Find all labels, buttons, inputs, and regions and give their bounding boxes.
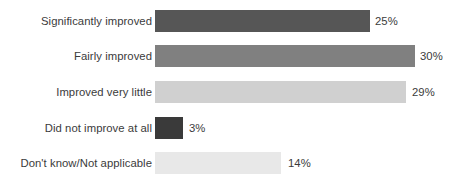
value-label: 30% bbox=[420, 45, 443, 67]
category-label: Significantly improved bbox=[41, 10, 152, 32]
bar-dont-know-not-applicable bbox=[155, 152, 281, 174]
category-label: Don't know/Not applicable bbox=[20, 152, 152, 174]
horizontal-bar-chart: Significantly improved 25% Fairly improv… bbox=[0, 0, 451, 187]
chart-row: Significantly improved 25% bbox=[0, 10, 451, 32]
category-label: Did not improve at all bbox=[45, 117, 152, 139]
category-label: Improved very little bbox=[56, 81, 152, 103]
value-label: 14% bbox=[288, 152, 311, 174]
bar-did-not-improve-at-all bbox=[155, 117, 183, 139]
value-label: 3% bbox=[189, 117, 205, 139]
bar-improved-very-little bbox=[155, 81, 406, 103]
bar-significantly-improved bbox=[155, 10, 370, 32]
bar-fairly-improved bbox=[155, 45, 415, 67]
chart-row: Fairly improved 30% bbox=[0, 45, 451, 67]
chart-row: Don't know/Not applicable 14% bbox=[0, 152, 451, 174]
value-label: 29% bbox=[412, 81, 435, 103]
chart-row: Improved very little 29% bbox=[0, 81, 451, 103]
value-label: 25% bbox=[375, 10, 398, 32]
chart-row: Did not improve at all 3% bbox=[0, 117, 451, 139]
category-label: Fairly improved bbox=[74, 45, 152, 67]
